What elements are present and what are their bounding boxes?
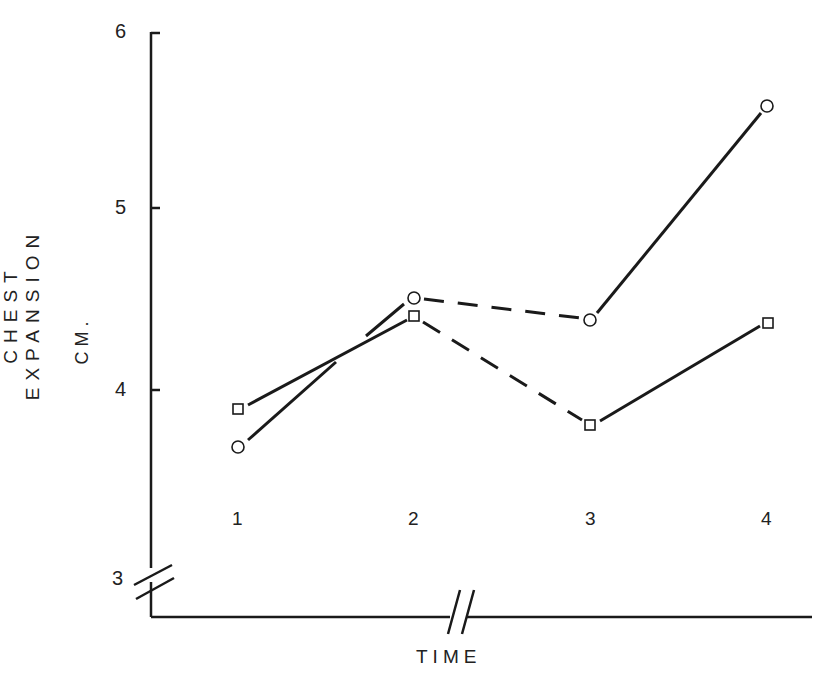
circle-markers (232, 100, 773, 453)
x-tick-4: 4 (761, 508, 772, 530)
y-tick-3: 3 (112, 567, 123, 590)
y-tick-6: 6 (115, 20, 126, 43)
y-axis-unit: CM. (72, 301, 93, 381)
series-circle-lines (248, 113, 761, 440)
x-axis-title: TIME (416, 646, 481, 668)
y-tick-5: 5 (115, 196, 126, 219)
chart-plot (0, 0, 827, 685)
y-axis (134, 32, 174, 617)
y-axis-title: CHEST EXPANSION (0, 174, 44, 454)
x-tick-2: 2 (408, 508, 419, 530)
y-tick-4: 4 (115, 378, 126, 401)
x-axis (151, 590, 812, 634)
x-tick-3: 3 (585, 508, 596, 530)
x-tick-1: 1 (232, 508, 243, 530)
